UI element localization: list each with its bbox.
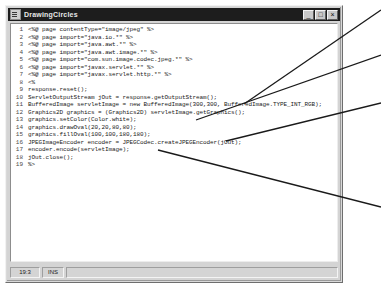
code-line: <%@ page import="javax.servlet.http.*" %… xyxy=(28,71,337,79)
minimize-icon: _ xyxy=(304,11,313,19)
code-line: <%@ page import="com.sun.image.codec.jpe… xyxy=(28,56,337,64)
code-line: jOut.close(); xyxy=(28,154,337,162)
title-bar[interactable]: DrawingCircles _ □ × xyxy=(8,8,340,21)
document-icon xyxy=(10,9,21,20)
code-line: <%@ page import="java.awt.image.*" %> xyxy=(28,49,337,57)
code-line: graphics.fillOval(100,100,180,180); xyxy=(28,131,337,139)
code-line: <%@ page import="javax.servlet.*" %> xyxy=(28,64,337,72)
code-line: <%@ page import="java.awt.*" %> xyxy=(28,41,337,49)
close-button[interactable]: × xyxy=(327,10,338,20)
line-number: 1 xyxy=(11,26,25,34)
code-line: <%@ page contentType="image/jpeg" %> xyxy=(28,26,337,34)
line-number: 17 xyxy=(11,146,25,154)
code-line: encoder.encode(servletImage); xyxy=(28,146,337,154)
status-bar: 19:3 INS xyxy=(10,266,338,279)
line-number: 7 xyxy=(11,71,25,79)
line-number: 4 xyxy=(11,49,25,57)
code-line: graphics.setColor(Color.white); xyxy=(28,116,337,124)
insert-mode-status: INS xyxy=(42,267,64,278)
line-number: 5 xyxy=(11,56,25,64)
screenshot-root: DrawingCircles _ □ × 1 2 3 4 5 xyxy=(0,0,381,294)
line-number: 18 xyxy=(11,154,25,162)
code-line: <%@ page import="java.io.*" %> xyxy=(28,34,337,42)
line-number: 16 xyxy=(11,139,25,147)
line-number: 3 xyxy=(11,41,25,49)
code-line: <% xyxy=(28,79,337,87)
code-line: %> xyxy=(28,161,337,169)
line-number: 15 xyxy=(11,131,25,139)
line-number: 14 xyxy=(11,124,25,132)
code-editor[interactable]: 1 2 3 4 5 6 7 8 9 10 11 12 13 14 15 16 1… xyxy=(10,23,338,262)
line-number: 19 xyxy=(11,161,25,169)
code-line: graphics.drawOval(20,20,80,80); xyxy=(28,124,337,132)
code-line: JPEGImageEncoder encoder = JPEGCodec.cre… xyxy=(28,139,337,147)
maximize-button[interactable]: □ xyxy=(315,10,326,20)
line-number: 6 xyxy=(11,64,25,72)
line-number: 13 xyxy=(11,116,25,124)
window-title: DrawingCircles xyxy=(24,8,299,21)
close-icon: × xyxy=(328,11,337,19)
cursor-position-status: 19:3 xyxy=(10,267,40,278)
code-line: BufferedImage servletImage = new Buffere… xyxy=(28,101,337,109)
line-number: 11 xyxy=(11,101,25,109)
code-text-area[interactable]: <%@ page contentType="image/jpeg" %> <%@… xyxy=(25,24,337,261)
window-controls: _ □ × xyxy=(303,10,338,20)
editor-window: DrawingCircles _ □ × 1 2 3 4 5 xyxy=(5,5,343,283)
line-number: 2 xyxy=(11,34,25,42)
code-line: ServletOutputStream jOut = response.getO… xyxy=(28,94,337,102)
status-filler xyxy=(66,267,338,278)
line-number: 12 xyxy=(11,109,25,117)
line-number: 9 xyxy=(11,86,25,94)
line-number: 8 xyxy=(11,79,25,87)
line-number: 10 xyxy=(11,94,25,102)
code-line: Graphics2D graphics = (Graphics2D) servl… xyxy=(28,109,337,117)
minimize-button[interactable]: _ xyxy=(303,10,314,20)
maximize-icon: □ xyxy=(316,11,325,19)
line-number-gutter: 1 2 3 4 5 6 7 8 9 10 11 12 13 14 15 16 1… xyxy=(11,24,25,261)
code-line: response.reset(); xyxy=(28,86,337,94)
